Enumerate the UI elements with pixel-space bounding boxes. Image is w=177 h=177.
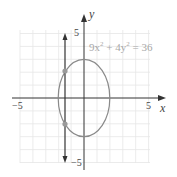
y-tick-label-neg5: −5 bbox=[71, 158, 82, 168]
x-axis-label: x bbox=[160, 102, 165, 114]
intersection-point-lower bbox=[62, 121, 67, 126]
x-tick-label-5: 5 bbox=[146, 101, 151, 111]
x-axis bbox=[12, 95, 166, 101]
equation-term-4y: + 4y bbox=[104, 41, 127, 53]
equation-term-9x: 9x bbox=[89, 41, 100, 53]
equation-label: 9x2 + 4y2 = 36 bbox=[89, 41, 152, 53]
x-tick-label-neg5: −5 bbox=[12, 101, 23, 111]
y-tick-label-5: 5 bbox=[74, 28, 79, 38]
intersection-point-upper bbox=[62, 68, 67, 73]
y-axis bbox=[81, 14, 87, 170]
equation-rhs: = 36 bbox=[130, 41, 153, 53]
chart-canvas bbox=[0, 0, 177, 177]
y-axis-label: y bbox=[89, 8, 94, 20]
